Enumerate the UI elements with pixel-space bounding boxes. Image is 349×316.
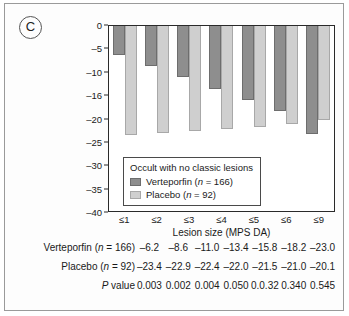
data-table: Verteporfin (n = 166)–6.2–8.6–11.0–13.4–… — [17, 242, 337, 299]
table-cell: 0.050 — [222, 280, 251, 292]
table-row-label: P value — [17, 280, 135, 292]
y-tick-label: –20 — [86, 114, 102, 123]
legend-item-placebo: Placebo (n = 92) — [130, 189, 253, 200]
table-cell: –18.2 — [279, 242, 308, 254]
x-tick-label: ≤5 — [238, 214, 270, 225]
table-cell: –15.8 — [250, 242, 279, 254]
legend-label-placebo: Placebo (n = 92) — [146, 189, 216, 200]
table-cell: –8.6 — [164, 242, 193, 254]
table-cell: 0.002 — [164, 280, 193, 292]
figure-frame: C 0–5–10–16–20–25–30–35–40 Occult with n… — [4, 3, 344, 311]
y-tick-label: –25 — [86, 137, 102, 146]
bar-group — [270, 26, 302, 211]
table-cell: 0.340 — [279, 280, 308, 292]
bar-verteporfin — [145, 26, 157, 66]
table-row: Verteporfin (n = 166)–6.2–8.6–11.0–13.4–… — [17, 242, 337, 261]
bar-verteporfin — [242, 26, 254, 100]
legend-swatch-placebo — [130, 191, 141, 199]
bar-placebo — [318, 26, 330, 120]
x-tick-label: ≤1 — [108, 214, 140, 225]
y-tick-label: –40 — [86, 208, 102, 217]
table-cell: –11.0 — [193, 242, 222, 254]
y-tick-label: –5 — [91, 44, 102, 53]
y-axis: 0–5–10–16–20–25–30–35–40 — [17, 25, 108, 212]
table-cell: –13.4 — [222, 242, 251, 254]
legend-item-verteporfin: Verteporfin (n = 166) — [130, 176, 253, 187]
table-row-label: Verteporfin (n = 166) — [17, 242, 135, 254]
table-cell: –20.1 — [308, 261, 337, 273]
table-cell: –22.0 — [222, 261, 251, 273]
table-cell: –6.2 — [135, 242, 164, 254]
legend-title: Occult with no classic lesions — [130, 162, 253, 174]
table-cell: –22.4 — [193, 261, 222, 273]
y-tick-label: –16 — [86, 91, 102, 100]
bar-verteporfin — [209, 26, 221, 89]
y-tick-label: –30 — [86, 161, 102, 170]
chart-legend: Occult with no classic lesions Verteporf… — [123, 157, 261, 206]
table-row: P value0.0030.0020.0040.0500.0.320.3400.… — [17, 280, 337, 299]
bar-placebo — [221, 26, 233, 129]
bar-verteporfin — [113, 26, 125, 55]
bar-placebo — [286, 26, 298, 124]
table-cell: –21.0 — [279, 261, 308, 273]
bar-placebo — [254, 26, 266, 127]
bar-chart: 0–5–10–16–20–25–30–35–40 Occult with no … — [17, 19, 335, 234]
bar-verteporfin — [177, 26, 189, 77]
table-cell: 0.545 — [308, 280, 337, 292]
x-tick-label: ≤9 — [303, 214, 335, 225]
table-cell: –22.9 — [164, 261, 193, 273]
table-cell: –23.0 — [308, 242, 337, 254]
table-cell: –21.5 — [250, 261, 279, 273]
bar-placebo — [157, 26, 169, 133]
y-tick-label: 0 — [97, 21, 102, 30]
table-cell: 0.004 — [193, 280, 222, 292]
y-tick-label: –35 — [86, 184, 102, 193]
table-row: Placebo (n = 92)–23.4–22.9–22.4–22.0–21.… — [17, 261, 337, 280]
table-row-label: Placebo (n = 92) — [17, 261, 135, 273]
bar-verteporfin — [306, 26, 318, 134]
plot-area: Occult with no classic lesions Verteporf… — [108, 25, 335, 212]
x-axis-title: Lesion size (MPS DA) — [108, 227, 335, 239]
bar-group — [302, 26, 334, 211]
x-tick-label: ≤6 — [270, 214, 302, 225]
legend-swatch-verteporfin — [130, 178, 141, 186]
bar-placebo — [125, 26, 137, 135]
table-cell: 0.0.32 — [250, 280, 279, 292]
y-tick-label: –10 — [86, 67, 102, 76]
bar-verteporfin — [274, 26, 286, 111]
x-axis-tick-labels: ≤1≤2≤3≤4≤5≤6≤9 — [108, 214, 335, 225]
table-cell: 0.003 — [135, 280, 164, 292]
table-cell: –23.4 — [135, 261, 164, 273]
legend-label-verteporfin: Verteporfin (n = 166) — [146, 176, 233, 187]
bar-placebo — [189, 26, 201, 131]
x-tick-label: ≤2 — [140, 214, 172, 225]
x-tick-label: ≤4 — [205, 214, 237, 225]
x-tick-label: ≤3 — [173, 214, 205, 225]
